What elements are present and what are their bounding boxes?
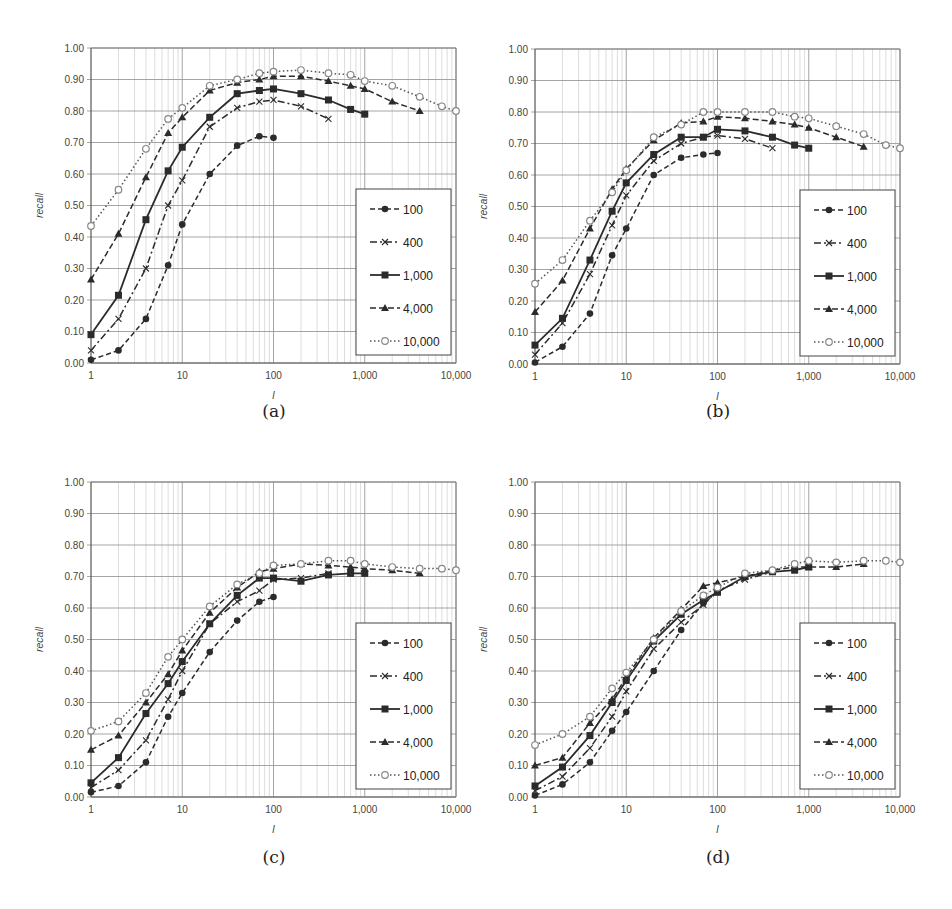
data-point-marker (559, 731, 566, 738)
data-point-marker (678, 627, 685, 634)
data-point-marker (587, 713, 594, 720)
y-tick-label: 0.60 (509, 603, 529, 614)
y-tick-label: 0.70 (509, 571, 529, 582)
data-point-marker (860, 557, 867, 564)
data-point-marker (623, 669, 630, 676)
data-point-marker (714, 584, 721, 591)
x-axis-label: l (716, 823, 719, 835)
y-tick-label: 0.50 (509, 634, 529, 645)
y-axis-label: recall (477, 626, 489, 652)
x-tick-label: 100 (709, 804, 726, 815)
data-point-marker (609, 685, 616, 692)
data-point-marker (769, 567, 776, 574)
data-point-marker (791, 561, 798, 568)
data-point-marker (532, 782, 539, 789)
legend-label: 400 (847, 670, 867, 684)
legend-marker (826, 640, 833, 647)
x-tick-label: 1,000 (796, 804, 821, 815)
data-point-marker (833, 559, 840, 566)
chart-d: 0.000.100.200.300.400.500.600.700.800.90… (0, 0, 952, 909)
data-point-marker (587, 759, 594, 766)
data-point-marker (559, 764, 566, 771)
legend-label: 1,000 (847, 703, 877, 717)
y-tick-label: 1.00 (509, 477, 529, 488)
x-tick-label: 1 (532, 804, 538, 815)
data-point-marker (897, 559, 904, 566)
data-point-marker (742, 570, 749, 577)
data-point-marker (609, 728, 616, 735)
y-tick-label: 0.80 (509, 540, 529, 551)
caption-d: (d) (688, 847, 748, 867)
y-tick-label: 0.30 (509, 697, 529, 708)
legend-marker (826, 772, 833, 779)
y-tick-label: 0.10 (509, 760, 529, 771)
series-1000 (532, 564, 813, 790)
chart-panel-d: 0.000.100.200.300.400.500.600.700.800.90… (0, 0, 952, 909)
legend-label: 10,000 (847, 769, 884, 783)
legend: 1004001,0004,00010,000 (800, 623, 895, 789)
legend-label: 4,000 (847, 736, 877, 750)
data-point-marker (586, 732, 593, 739)
data-point-marker (650, 636, 657, 643)
data-point-marker (623, 709, 630, 716)
y-tick-label: 0.20 (509, 729, 529, 740)
x-tick-label: 10,000 (885, 804, 916, 815)
data-point-marker (883, 557, 890, 564)
data-point-marker (650, 668, 657, 675)
data-point-marker (559, 781, 566, 788)
data-point-marker (678, 608, 685, 615)
data-point-marker (532, 742, 539, 749)
y-tick-label: 0.40 (509, 666, 529, 677)
x-tick-label: 10 (621, 804, 633, 815)
y-tick-label: 0.90 (509, 508, 529, 519)
legend-marker (826, 706, 833, 713)
legend-label: 100 (847, 637, 867, 651)
y-tick-label: 0.00 (509, 792, 529, 803)
data-point-marker (805, 557, 812, 564)
data-point-marker (700, 592, 707, 599)
